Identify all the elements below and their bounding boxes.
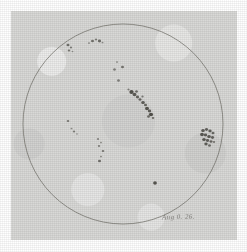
sunspot (136, 96, 139, 99)
sunspot (135, 90, 138, 92)
sunspot (206, 139, 209, 142)
sunspot (121, 66, 124, 69)
sunspot (127, 89, 129, 91)
sunspot (70, 47, 72, 49)
sunspot-groups-layer (67, 38, 216, 184)
sunspot (76, 133, 78, 135)
sunspot (208, 144, 211, 146)
sunspot (145, 107, 149, 110)
sunspot (205, 128, 208, 131)
solar-limb-circle (23, 24, 223, 224)
sunspot (117, 79, 120, 81)
sunspot (67, 120, 70, 122)
sunspot (73, 130, 75, 132)
group-main-diagonal (127, 89, 154, 120)
sunspot (202, 138, 206, 141)
sunspot (210, 140, 213, 143)
sunspot (207, 135, 211, 138)
sunspot (71, 128, 73, 130)
sunspot (116, 61, 118, 63)
sunspot (139, 98, 142, 101)
sunspot (98, 40, 101, 43)
sunspot (102, 150, 105, 152)
group-south-central (97, 138, 104, 162)
sunspot (153, 181, 157, 184)
sunspot (133, 93, 137, 96)
photographic-plate: Aug 0. 26. (0, 0, 247, 252)
sunspot (208, 130, 211, 133)
sunspot (98, 145, 100, 147)
sunspot (200, 133, 204, 136)
sunspot (213, 141, 215, 143)
sunspot (91, 40, 94, 43)
sunspot (204, 134, 207, 137)
sunspot (100, 156, 102, 158)
group-west-small (67, 120, 78, 135)
sunspot (152, 117, 155, 119)
sunspot (100, 142, 102, 144)
sunspot (113, 68, 116, 70)
sunspot (72, 51, 74, 53)
sunspot (211, 136, 214, 139)
group-nw-limb (67, 44, 74, 53)
sunspot (67, 44, 70, 47)
sunspot (95, 38, 97, 40)
spot-isolated-south (153, 181, 157, 184)
group-east-limb-cluster (200, 128, 215, 147)
sunspot (141, 95, 143, 97)
sunspot (141, 101, 145, 104)
sunspot (102, 42, 104, 44)
group-central-north (113, 61, 124, 82)
sunspot (204, 143, 207, 146)
handwritten-date-caption: Aug 0. 26. (162, 213, 195, 222)
solar-disk-drawing (0, 0, 247, 252)
sunspot (201, 129, 205, 132)
sunspot (68, 49, 71, 51)
sunspot (129, 90, 133, 94)
sunspot (147, 115, 150, 117)
solar-limb-circle (23, 24, 223, 224)
sunspot (98, 160, 101, 163)
sunspot (97, 138, 99, 140)
group-north-upper (88, 38, 104, 43)
sunspot (148, 110, 151, 113)
sunspot (212, 132, 215, 135)
sunspot (88, 42, 90, 44)
sunspot (144, 104, 147, 107)
